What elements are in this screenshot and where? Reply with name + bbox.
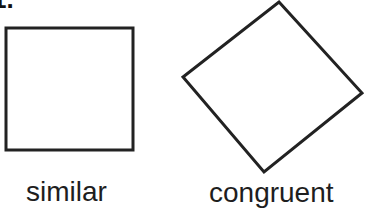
label-congruent: congruent: [209, 179, 334, 207]
label-similar: similar: [26, 178, 107, 206]
square-shape: [6, 28, 133, 150]
rotated-square-shape: [183, 2, 362, 172]
